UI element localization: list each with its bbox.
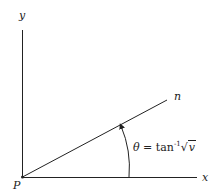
x-axis-label: x [202, 172, 208, 183]
angle-arc [121, 126, 129, 177]
line-n-label: n [174, 91, 181, 102]
theta-symbol: θ [133, 141, 140, 154]
origin-label: P [13, 180, 20, 189]
diagram-canvas: y x P n θ = tan-1√v [0, 0, 219, 189]
radicand: v [188, 140, 196, 153]
origin-point [21, 176, 24, 179]
diagram-graphics [0, 0, 219, 189]
line-n [23, 100, 168, 177]
angle-equation: θ = tan-1√v [133, 140, 196, 153]
radical-sign: √ [181, 141, 188, 154]
equals-tan: = tan [140, 141, 174, 154]
inverse-exponent: -1 [174, 140, 181, 148]
y-axis-label: y [19, 10, 25, 21]
